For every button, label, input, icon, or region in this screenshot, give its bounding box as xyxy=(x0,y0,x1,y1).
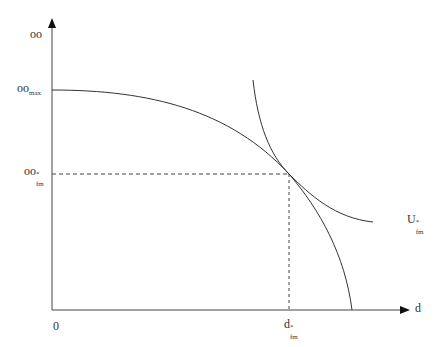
d-fm-label: d*fm xyxy=(284,318,290,330)
origin-label: 0 xyxy=(53,320,59,332)
oo-fm-label: oo*fm xyxy=(24,165,36,177)
oo-max-label: oomax xyxy=(17,82,41,97)
x-axis-arrow-icon xyxy=(400,306,410,314)
x-axis-label: d xyxy=(415,302,421,314)
y-axis-label: oo xyxy=(30,28,42,40)
ppf-curve xyxy=(52,90,352,310)
diagram-canvas xyxy=(0,0,445,347)
indifference-curve xyxy=(253,80,373,222)
u-fm-label: U*fm xyxy=(407,213,416,225)
y-axis-arrow-icon xyxy=(48,18,56,28)
